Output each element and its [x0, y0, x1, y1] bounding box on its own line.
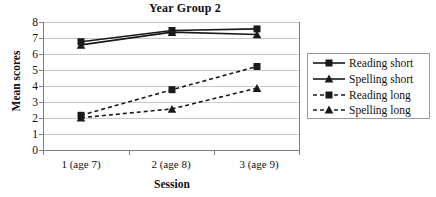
legend-swatch-reading-short: [312, 55, 346, 71]
legend-item-spelling-long: Spelling long: [308, 102, 431, 118]
legend-item-spelling-short: Spelling short: [308, 71, 431, 87]
legend-swatch-reading-long: [312, 87, 346, 103]
legend-swatch-spelling-long: [312, 102, 346, 118]
legend-item-reading-short: Reading short: [308, 55, 431, 71]
legend-label-reading-long: Reading long: [349, 88, 411, 102]
legend-label-reading-short: Reading short: [349, 56, 413, 70]
legend-label-spelling-long: Spelling long: [349, 103, 411, 117]
chart-legend: Reading short Spelling short Reading lon…: [307, 53, 430, 119]
legend-label-spelling-short: Spelling short: [349, 72, 413, 86]
legend-item-reading-long: Reading long: [308, 87, 431, 103]
legend-swatch-spelling-short: [312, 71, 346, 87]
chart-figure: Year Group 2 Mean scores 8 7 6 5 4 3 2 1…: [0, 0, 436, 197]
